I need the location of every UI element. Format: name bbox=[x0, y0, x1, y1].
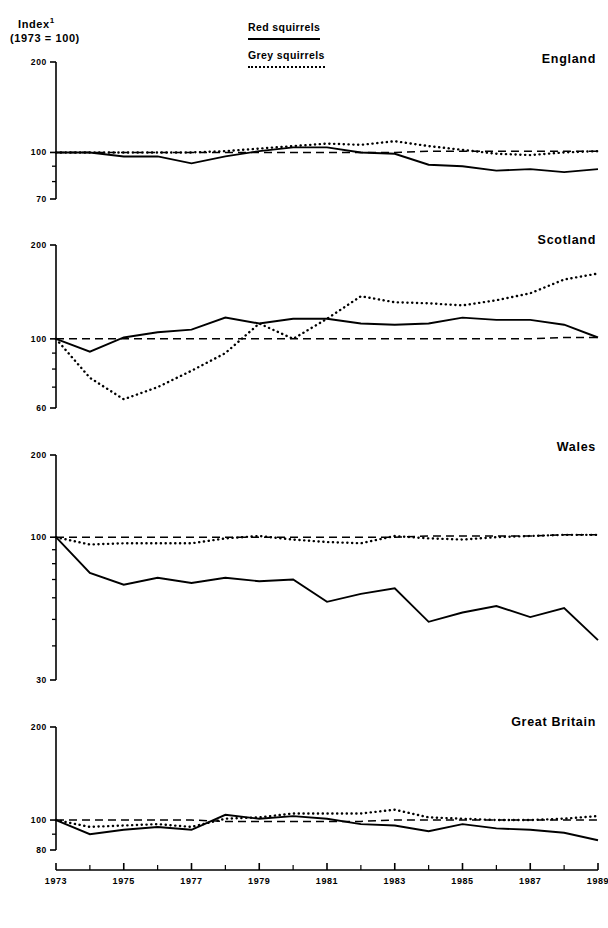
x-tick-label: 1985 bbox=[451, 876, 473, 886]
x-tick-label: 1975 bbox=[113, 876, 135, 886]
y-axis-title: Index1 (1973 = 100) bbox=[18, 14, 80, 45]
x-axis-svg: 197319751977197919811983198519871989 bbox=[0, 860, 608, 900]
x-axis: 197319751977197919811983198519871989 bbox=[0, 860, 608, 900]
x-tick-label: 1989 bbox=[587, 876, 608, 886]
plot-england: 20010070 bbox=[0, 52, 608, 227]
y-tick-label: 100 bbox=[31, 334, 47, 344]
legend-label-red: Red squirrels bbox=[248, 18, 320, 40]
plot-scotland: 20010060 bbox=[0, 233, 608, 418]
series-line-dotted bbox=[56, 274, 598, 400]
panel-title-great-britain: Great Britain bbox=[511, 715, 596, 729]
y-tick-label: 200 bbox=[31, 450, 47, 460]
y-tick-label: 100 bbox=[31, 532, 47, 542]
x-tick-label: 1973 bbox=[45, 876, 67, 886]
y-axis-title-footnote-marker: 1 bbox=[50, 16, 55, 25]
series-line-solid bbox=[56, 537, 598, 640]
y-tick-label: 200 bbox=[31, 240, 47, 250]
panel-title-wales: Wales bbox=[557, 440, 596, 454]
y-tick-label: 100 bbox=[31, 815, 47, 825]
x-tick-label: 1983 bbox=[384, 876, 406, 886]
plot-wales: 20010030 bbox=[0, 440, 608, 695]
panel-scotland: Scotland 20010060 bbox=[0, 233, 608, 418]
series-line-dashed bbox=[56, 820, 598, 821]
panel-title-england: England bbox=[542, 52, 596, 66]
series-line-solid bbox=[56, 815, 598, 841]
series-line-dashed bbox=[56, 337, 598, 338]
y-tick-label: 70 bbox=[36, 194, 47, 204]
y-axis-title-line1: Index bbox=[18, 18, 50, 30]
y-tick-label: 60 bbox=[36, 403, 47, 413]
y-tick-label: 200 bbox=[31, 722, 47, 732]
panel-title-scotland: Scotland bbox=[538, 233, 596, 247]
y-tick-label: 100 bbox=[31, 147, 47, 157]
panel-wales: Wales 20010030 bbox=[0, 440, 608, 695]
series-line-dashed bbox=[56, 535, 598, 537]
plot-great-britain: 20010080 bbox=[0, 715, 608, 865]
squirrel-index-figure: Index1 (1973 = 100) Red squirrels Grey s… bbox=[0, 0, 608, 928]
y-axis-title-line2: (1973 = 100) bbox=[10, 31, 80, 45]
series-line-solid bbox=[56, 318, 598, 352]
panel-england: England 20010070 bbox=[0, 52, 608, 227]
y-tick-label: 80 bbox=[36, 845, 47, 855]
x-tick-label: 1979 bbox=[248, 876, 270, 886]
y-tick-label: 200 bbox=[31, 57, 47, 67]
legend-row-red: Red squirrels bbox=[248, 18, 325, 46]
y-tick-label: 30 bbox=[36, 675, 47, 685]
x-tick-label: 1977 bbox=[180, 876, 202, 886]
x-tick-label: 1981 bbox=[316, 876, 338, 886]
x-tick-label: 1987 bbox=[519, 876, 541, 886]
panel-great-britain: Great Britain 20010080 bbox=[0, 715, 608, 865]
